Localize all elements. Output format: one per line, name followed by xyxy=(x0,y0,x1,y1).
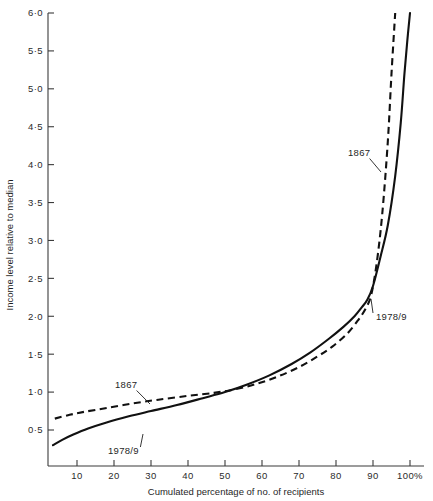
x-tick-label: 20 xyxy=(108,470,119,481)
y-tick-label: 3·5 xyxy=(28,197,43,208)
y-tick-label: 1·0 xyxy=(28,386,43,397)
annotation-label-1978-9: 1978/9 xyxy=(108,445,139,456)
x-tick-label: 50 xyxy=(219,470,230,481)
y-tick-group: 0·51·01·52·02·53·03·54·04·55·05·56·0 xyxy=(28,7,54,435)
y-tick-label: 4·5 xyxy=(28,121,43,132)
series-group xyxy=(53,13,410,445)
x-tick-group: 102030405060708090100% xyxy=(71,460,423,481)
x-tick-label: 40 xyxy=(182,470,193,481)
x-tick-label: 70 xyxy=(293,470,304,481)
x-axis: 102030405060708090100% xyxy=(48,460,424,481)
x-tick-label: 100% xyxy=(397,470,423,481)
y-tick-label: 2·5 xyxy=(28,273,43,284)
series-line-1867 xyxy=(55,13,395,419)
annotation-label-1867: 1867 xyxy=(348,147,370,158)
y-axis: 0·51·01·52·02·53·03·54·04·55·05·56·0 xyxy=(28,7,54,466)
x-tick-label: 10 xyxy=(71,470,82,481)
y-tick-label: 6·0 xyxy=(28,7,43,18)
y-tick-label: 0·5 xyxy=(28,424,43,435)
x-tick-label: 80 xyxy=(330,470,341,481)
x-axis-title: Cumulated percentage of no. of recipient… xyxy=(148,486,325,497)
annotation-leader-line xyxy=(370,159,381,173)
series-line-1978-9 xyxy=(53,13,410,445)
annotation-leader-line xyxy=(371,299,373,313)
chart-figure: 0·51·01·52·02·53·03·54·04·55·05·56·0 102… xyxy=(0,0,433,501)
annotation-label-1978-9: 1978/9 xyxy=(376,311,407,322)
x-tick-label: 60 xyxy=(256,470,267,481)
y-tick-label: 5·5 xyxy=(28,45,43,56)
annotation-leader-line xyxy=(140,434,143,447)
x-tick-label: 30 xyxy=(145,470,156,481)
y-tick-label: 3·0 xyxy=(28,235,43,246)
y-tick-label: 5·0 xyxy=(28,83,43,94)
annotation-label-1867: 1867 xyxy=(115,379,137,390)
y-tick-label: 2·0 xyxy=(28,311,43,322)
x-tick-label: 90 xyxy=(367,470,378,481)
y-tick-label: 1·5 xyxy=(28,349,43,360)
y-tick-label: 4·0 xyxy=(28,159,43,170)
lorenz-income-distribution-chart: 0·51·01·52·02·53·03·54·04·55·05·56·0 102… xyxy=(0,0,433,501)
y-axis-title: Income level relative to median xyxy=(4,180,15,311)
